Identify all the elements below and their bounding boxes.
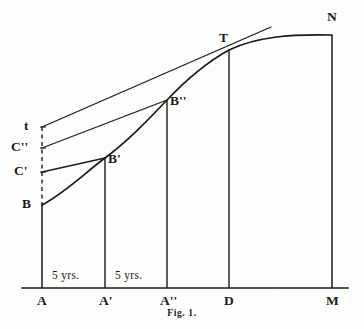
figure-caption: Fig. 1.	[0, 308, 364, 318]
axis-label-a: A	[37, 294, 47, 308]
axis-label-a-prime: A'	[99, 294, 113, 308]
chord-C2-B2	[42, 100, 167, 148]
point-label-t-tangency: T	[219, 31, 228, 45]
point-label-c-prime: C'	[14, 164, 28, 178]
growth-curve-BTN	[42, 35, 332, 205]
interval-label-second: 5 yrs.	[115, 270, 142, 282]
point-label-b-prime: B'	[108, 152, 121, 166]
point-label-b: B	[22, 197, 31, 211]
axis-label-a-double-prime: A''	[160, 294, 177, 308]
point-label-c-double-prime: C''	[11, 140, 28, 154]
point-label-b-double-prime: B''	[170, 94, 187, 108]
interval-label-first: 5 yrs.	[52, 270, 79, 282]
figure-container: t C'' C' B B' B'' T N 5 yrs. 5 yrs. A A'…	[0, 0, 364, 329]
axis-label-m: M	[326, 294, 339, 308]
axis-label-d: D	[224, 294, 234, 308]
point-label-t: t	[24, 119, 28, 132]
point-label-n: N	[327, 10, 337, 24]
